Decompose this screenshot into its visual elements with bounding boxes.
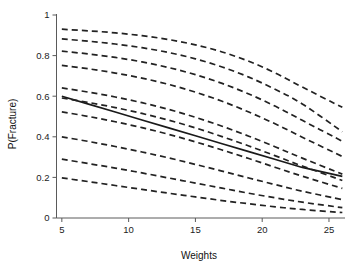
curve-subject-curve-10	[62, 178, 342, 213]
y-tick-label: 0	[44, 212, 49, 223]
x-tick-label: 15	[190, 224, 201, 235]
curve-subject-curve-8	[62, 137, 342, 200]
y-axis-title: P(Fracture)	[7, 99, 18, 150]
tick-marks	[53, 15, 329, 222]
axes	[57, 14, 346, 218]
data-curves	[62, 29, 342, 212]
x-tick-label: 5	[59, 224, 64, 235]
curve-subject-curve-6	[62, 98, 342, 180]
curve-subject-curve-4	[62, 65, 342, 156]
x-tick-label: 10	[123, 224, 134, 235]
x-axis-title: Weights	[181, 250, 217, 261]
y-tick-label: 0.4	[36, 131, 49, 142]
y-tick-label: 0.8	[36, 50, 49, 61]
y-tick-label: 1	[44, 9, 49, 20]
plot-area: 00.20.40.60.81510152025 Weights P(Fractu…	[0, 0, 364, 267]
chart-figure: 00.20.40.60.81510152025 Weights P(Fractu…	[0, 0, 364, 267]
x-tick-label: 25	[324, 224, 335, 235]
curve-subject-curve-7	[62, 112, 342, 189]
y-tick-label: 0.6	[36, 91, 49, 102]
y-tick-label: 0.2	[36, 172, 49, 183]
x-tick-label: 20	[257, 224, 268, 235]
curve-subject-curve-3	[62, 51, 342, 141]
curve-subject-curve-2	[62, 39, 342, 132]
curve-subject-curve-5	[62, 88, 342, 174]
